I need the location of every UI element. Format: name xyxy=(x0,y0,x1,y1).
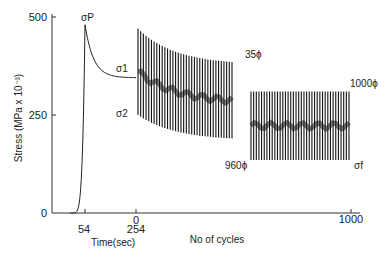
annotation-35-cycles: 35ϕ xyxy=(245,49,262,60)
y-tick-label-500: 500 xyxy=(29,11,47,23)
late-mean-band xyxy=(251,123,349,129)
annotation-sigma-1: σ1 xyxy=(116,63,128,74)
stress-time-cycles-chart: 500 250 0 Stress (MPa x 10⁻³) 54 0 254 1… xyxy=(0,0,389,258)
annotation-960-cycles: 960ϕ xyxy=(225,160,248,171)
annotation-sigma-2: σ2 xyxy=(116,108,128,119)
y-tick-label-250: 250 xyxy=(29,109,47,121)
x-axis-title-time: Time(sec) xyxy=(91,237,135,248)
y-axis-title: Stress (MPa x 10⁻³) xyxy=(13,74,24,162)
fatigue-cycles-late xyxy=(251,91,349,160)
early-mean-band xyxy=(138,71,232,103)
fatigue-cycles-early xyxy=(138,29,232,139)
y-tick-label-0: 0 xyxy=(41,207,47,219)
axes xyxy=(52,14,360,213)
annotation-sigma-p: σP xyxy=(81,12,94,23)
x-tick-label-1000: 1000 xyxy=(339,213,363,225)
annotation-1000-cycles: 1000ϕ xyxy=(350,78,378,89)
annotation-sigma-f: σf xyxy=(354,160,363,171)
x-tick-label-54: 54 xyxy=(78,223,90,235)
x-axis-title-cycles: No of cycles xyxy=(190,234,244,245)
x-tick-label-254: 254 xyxy=(127,223,145,235)
